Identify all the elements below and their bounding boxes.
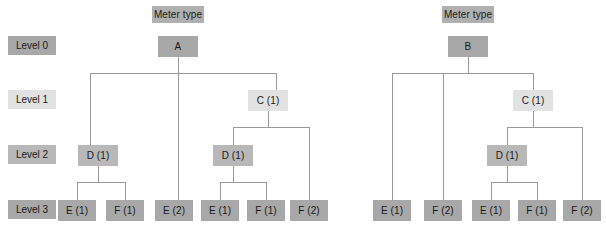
- tree-node-b-f2a: F (2): [424, 200, 462, 221]
- tree-node-b-f1: F (1): [518, 200, 556, 221]
- tree-node-a-f1a: F (1): [106, 200, 144, 221]
- tree-title-meter-type-b: Meter type: [442, 6, 494, 23]
- level-label-3: Level 3: [8, 200, 56, 219]
- tree-node-a-e2: E (2): [155, 200, 193, 221]
- tree-node-b-d1: D (1): [487, 145, 527, 166]
- level-label-0: Level 0: [8, 36, 56, 55]
- tree-node-a-f2: F (2): [290, 200, 328, 221]
- tree-node-a-e1b: E (1): [201, 200, 239, 221]
- tree-node-a-c1: C (1): [248, 90, 288, 111]
- tree-node-b-c1: C (1): [513, 90, 553, 111]
- tree-node-b-e1a: E (1): [373, 200, 411, 221]
- tree-node-b-root: B: [448, 36, 488, 57]
- tree-node-b-f2b: F (2): [563, 200, 601, 221]
- tree-node-a-d1l: D (1): [78, 145, 118, 166]
- level-label-1: Level 1: [8, 90, 56, 109]
- tree-title-meter-type-a: Meter type: [152, 6, 204, 23]
- tree-node-a-d1r: D (1): [213, 145, 253, 166]
- tree-node-a-f1b: F (1): [247, 200, 285, 221]
- tree-node-a-e1a: E (1): [58, 200, 96, 221]
- level-label-2: Level 2: [8, 145, 56, 164]
- tree-diagram-canvas: Level 0Level 1Level 2Level 3Meter typeAC…: [0, 0, 606, 237]
- tree-node-a-root: A: [158, 36, 198, 57]
- tree-node-b-e1b: E (1): [472, 200, 510, 221]
